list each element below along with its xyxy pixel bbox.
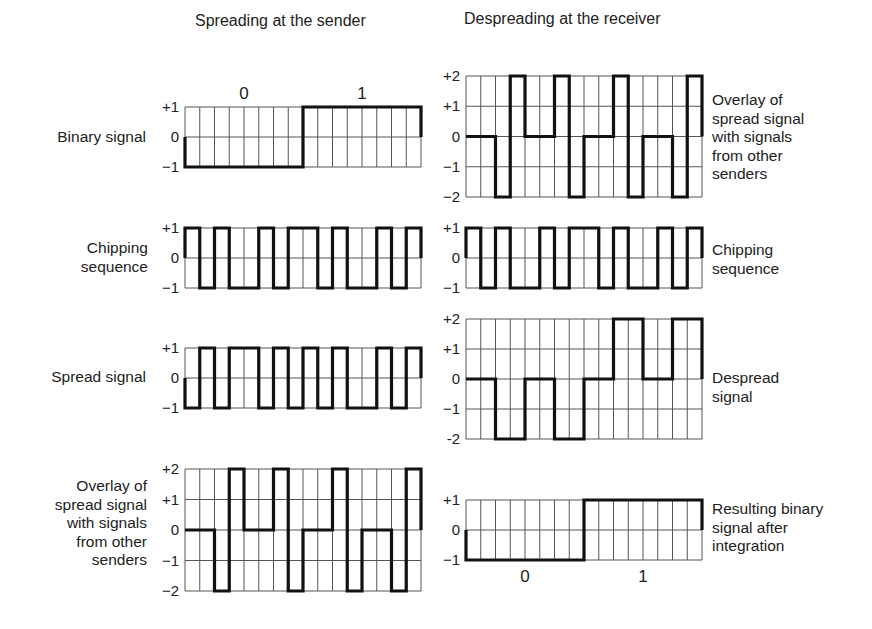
y-tick-label: +1 (443, 219, 460, 236)
bit-label: 1 (357, 84, 366, 103)
y-tick-label: 0 (171, 521, 179, 538)
y-tick-label: 0 (452, 370, 460, 387)
y-tick-label: −1 (162, 158, 179, 175)
y-tick-label: −1 (443, 551, 460, 568)
y-tick-label: -2 (447, 430, 460, 447)
overlay-receiver-plot: +2+10−1−2 (443, 67, 702, 205)
y-tick-label: +1 (443, 340, 460, 357)
y-tick-label: −1 (162, 279, 179, 296)
y-tick-label: +2 (162, 460, 179, 477)
resulting-binary-signal-plot: +10−101 (443, 491, 702, 586)
y-tick-label: +1 (162, 491, 179, 508)
y-tick-label: +1 (443, 97, 460, 114)
bit-label: 0 (239, 84, 248, 103)
y-tick-label: +2 (443, 67, 460, 84)
signal-plots: +10−101+10−1+10−1+2+10−1−2+2+10−1−2+10−1… (0, 0, 872, 629)
y-tick-label: −2 (443, 188, 460, 205)
y-tick-label: −1 (162, 552, 179, 569)
overlay-sender-plot: +2+10−1−2 (162, 460, 421, 599)
y-tick-label: 0 (171, 369, 179, 386)
y-tick-label: +1 (162, 219, 179, 236)
y-tick-label: 0 (452, 128, 460, 145)
y-tick-label: −1 (162, 399, 179, 416)
y-tick-label: −1 (443, 279, 460, 296)
y-tick-label: 0 (452, 521, 460, 538)
binary-signal-plot: +10−101 (162, 84, 421, 175)
y-tick-label: 0 (171, 128, 179, 145)
despread-signal-plot: +2+10−1-2 (443, 310, 702, 447)
y-tick-label: 0 (452, 249, 460, 266)
y-tick-label: 0 (171, 249, 179, 266)
y-tick-label: +1 (443, 491, 460, 508)
bit-label: 0 (520, 567, 529, 586)
y-tick-label: −2 (162, 582, 179, 599)
y-tick-label: −1 (443, 158, 460, 175)
bit-label: 1 (638, 567, 647, 586)
spread-signal-plot: +10−1 (162, 339, 421, 416)
chipping-sequence-receiver-plot: +10−1 (443, 219, 702, 296)
y-tick-label: +1 (162, 339, 179, 356)
y-tick-label: +2 (443, 310, 460, 327)
y-tick-label: +1 (162, 98, 179, 115)
chipping-sequence-sender-plot: +10−1 (162, 219, 421, 296)
y-tick-label: −1 (443, 400, 460, 417)
